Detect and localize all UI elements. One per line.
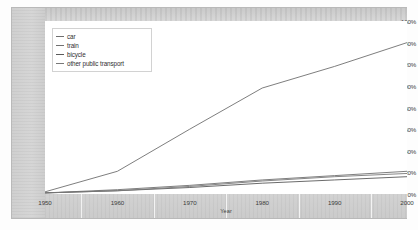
x-axis-tick-label: 1960: [111, 199, 124, 206]
series-line-train: [45, 171, 407, 193]
chart-figure: 0%20%40%60%80%100%120%140%160% 195019601…: [0, 0, 418, 230]
legend-item[interactable]: car: [56, 32, 147, 41]
y-axis-band: [12, 8, 45, 218]
chart-legend: cartrainbicycleother public transport: [52, 28, 152, 72]
legend-line-swatch-icon: [56, 36, 64, 37]
legend-line-swatch-icon: [56, 45, 64, 46]
legend-item-label: bicycle: [67, 50, 86, 59]
x-axis-tick-label: 1970: [183, 199, 196, 206]
top-band: [45, 8, 407, 21]
legend-item-label: car: [67, 32, 75, 41]
legend-item[interactable]: other public transport: [56, 59, 147, 68]
x-axis-tick-label: 1950: [38, 199, 51, 206]
x-axis-title: Year: [45, 208, 407, 215]
legend-item[interactable]: bicycle: [56, 50, 147, 59]
legend-line-swatch-icon: [56, 54, 64, 55]
legend-line-swatch-icon: [56, 63, 64, 64]
x-axis-tick-label: 1980: [256, 199, 269, 206]
x-axis-tick-label: 2000: [400, 199, 413, 206]
x-axis-tick-label: 1990: [328, 199, 341, 206]
legend-item-label: train: [67, 41, 79, 50]
legend-item-label: other public transport: [67, 59, 124, 68]
legend-item[interactable]: train: [56, 41, 147, 50]
